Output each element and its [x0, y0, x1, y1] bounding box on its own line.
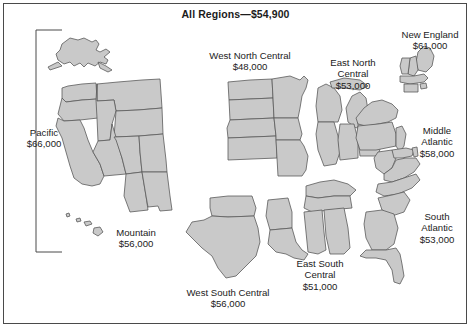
region-label-west-south-central: West South Central $56,000 — [158, 287, 298, 310]
state-oklahoma — [210, 196, 256, 217]
region-value-south-atlantic: $53,000 — [406, 234, 468, 245]
region-value-east-south-central: $51,000 — [278, 281, 362, 292]
state-alaska — [56, 38, 110, 67]
region-name-east-south-central-line2: Central — [278, 269, 362, 280]
region-shape-west-north-central — [227, 76, 308, 176]
region-label-middle-atlantic: Middle Atlantic $58,000 — [406, 125, 468, 159]
region-value-mountain: $56,000 — [94, 238, 178, 249]
state-illinois — [316, 122, 340, 166]
state-rhode-island — [420, 83, 427, 89]
state-florida — [360, 248, 404, 284]
region-name-east-north-central-line1: East North — [313, 57, 393, 68]
state-texas — [186, 216, 260, 278]
state-vermont — [400, 58, 410, 74]
region-label-east-south-central: East South Central $51,000 — [278, 258, 362, 292]
region-label-east-north-central: East North Central $53,000 — [313, 57, 393, 91]
state-arkansas — [266, 198, 292, 230]
region-shape-mountain — [93, 79, 172, 212]
region-name-mountain: Mountain — [94, 227, 178, 238]
state-minnesota — [272, 76, 308, 118]
region-label-south-atlantic: South Atlantic $53,000 — [406, 211, 468, 245]
region-value-new-england: $61,000 — [392, 40, 468, 51]
state-kansas — [228, 136, 277, 160]
state-alabama — [324, 208, 350, 254]
region-shape-new-england — [400, 46, 434, 92]
state-colorado — [139, 134, 167, 172]
region-label-west-north-central: West North Central $48,000 — [178, 50, 322, 73]
state-pennsylvania — [356, 122, 396, 150]
region-name-south-atlantic-line2: Atlantic — [406, 222, 468, 233]
region-name-middle-atlantic-line1: Middle — [406, 125, 468, 136]
region-value-west-north-central: $48,000 — [178, 61, 322, 72]
region-name-middle-atlantic-line2: Atlantic — [406, 136, 468, 147]
region-label-new-england: New England $61,000 — [392, 29, 468, 52]
state-hawaii-3 — [84, 221, 92, 226]
region-name-west-north-central: West North Central — [178, 50, 322, 61]
region-name-new-england: New England — [392, 29, 468, 40]
region-value-middle-atlantic: $58,000 — [406, 148, 468, 159]
state-hawaii — [66, 213, 70, 217]
region-name-east-south-central-line1: East South — [278, 258, 362, 269]
state-hawaii-2 — [76, 218, 81, 222]
region-value-west-south-central: $56,000 — [158, 298, 298, 309]
state-indiana — [338, 124, 358, 160]
state-mississippi — [304, 210, 326, 254]
region-name-pacific: Pacific — [8, 127, 80, 138]
region-map-figure: All Regions—$54,900 — [0, 0, 471, 328]
state-missouri — [276, 140, 308, 176]
state-alaska-aleutians — [48, 62, 62, 70]
region-name-east-north-central-line2: Central — [313, 68, 393, 79]
region-value-east-north-central: $53,000 — [313, 80, 393, 91]
state-kentucky — [306, 180, 356, 198]
state-iowa — [274, 118, 302, 140]
region-label-mountain: Mountain $56,000 — [94, 227, 178, 250]
state-georgia — [364, 210, 398, 250]
region-label-pacific: Pacific $66,000 — [8, 127, 80, 150]
state-louisiana — [268, 228, 308, 260]
state-south-dakota — [229, 98, 274, 120]
state-nebraska — [227, 118, 276, 138]
region-name-west-south-central: West South Central — [158, 287, 298, 298]
state-wyoming — [114, 108, 163, 137]
region-value-pacific: $66,000 — [8, 138, 80, 149]
region-name-south-atlantic-line1: South — [406, 211, 468, 222]
state-connecticut — [404, 84, 418, 92]
state-north-dakota — [228, 79, 273, 100]
state-oregon — [58, 98, 98, 121]
region-shape-east-south-central — [304, 180, 356, 254]
